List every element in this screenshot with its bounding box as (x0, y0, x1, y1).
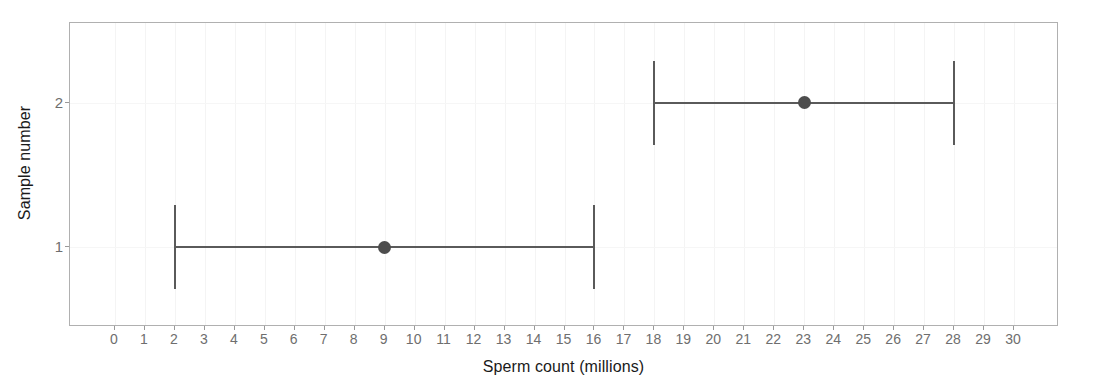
x-tick-mark (1013, 326, 1014, 330)
x-tick-label: 0 (110, 331, 118, 347)
y-tick-label: 1 (55, 238, 63, 255)
x-tick-mark (534, 326, 535, 330)
gridline-vertical (145, 23, 146, 325)
x-tick-mark (893, 326, 894, 330)
x-tick-label: 30 (1005, 331, 1021, 347)
x-tick-mark (983, 326, 984, 330)
x-tick-mark (414, 326, 415, 330)
gridline-vertical (624, 23, 625, 325)
gridline-vertical (894, 23, 895, 325)
x-tick-label: 4 (230, 331, 238, 347)
y-tick-label: 2 (55, 93, 63, 110)
x-tick-label: 21 (736, 331, 752, 347)
x-tick-mark (653, 326, 654, 330)
x-tick-mark (174, 326, 175, 330)
gridline-vertical (475, 23, 476, 325)
x-tick-label: 20 (706, 331, 722, 347)
gridline-vertical (984, 23, 985, 325)
x-tick-label: 8 (350, 331, 358, 347)
gridline-vertical (565, 23, 566, 325)
x-tick-label: 10 (406, 331, 422, 347)
x-tick-label: 3 (200, 331, 208, 347)
x-tick-label: 11 (436, 331, 451, 347)
gridline-vertical (415, 23, 416, 325)
x-tick-mark (384, 326, 385, 330)
y-axis-title: Sample number (8, 0, 42, 326)
gridline-vertical (774, 23, 775, 325)
x-tick-label: 15 (556, 331, 572, 347)
gridline-vertical (684, 23, 685, 325)
x-tick-mark (593, 326, 594, 330)
gridline-vertical (864, 23, 865, 325)
x-tick-mark (144, 326, 145, 330)
errorbar-cap-upper (953, 61, 955, 145)
x-tick-label: 19 (676, 331, 692, 347)
x-tick-mark (773, 326, 774, 330)
gridline-vertical (235, 23, 236, 325)
y-tick-mark (65, 246, 69, 247)
x-tick-mark (234, 326, 235, 330)
x-tick-mark (114, 326, 115, 330)
x-tick-label: 12 (466, 331, 482, 347)
x-tick-label: 23 (795, 331, 811, 347)
gridline-vertical (924, 23, 925, 325)
x-tick-label: 9 (380, 331, 388, 347)
x-tick-mark (204, 326, 205, 330)
gridline-vertical (535, 23, 536, 325)
x-axis-title: Sperm count (millions) (69, 358, 1058, 376)
gridline-vertical (445, 23, 446, 325)
gridline-vertical (505, 23, 506, 325)
x-tick-mark (444, 326, 445, 330)
x-tick-mark (564, 326, 565, 330)
x-tick-label: 18 (646, 331, 662, 347)
x-tick-mark (923, 326, 924, 330)
x-tick-mark (743, 326, 744, 330)
x-tick-mark (294, 326, 295, 330)
x-tick-mark (683, 326, 684, 330)
gridline-vertical (744, 23, 745, 325)
x-tick-label: 28 (945, 331, 961, 347)
x-tick-label: 7 (320, 331, 328, 347)
x-tick-mark (504, 326, 505, 330)
x-tick-mark (833, 326, 834, 330)
x-tick-label: 26 (885, 331, 901, 347)
data-point (798, 96, 811, 109)
x-tick-label: 17 (616, 331, 632, 347)
x-tick-mark (264, 326, 265, 330)
x-tick-label: 27 (915, 331, 931, 347)
gridline-vertical (1014, 23, 1015, 325)
x-tick-label: 1 (140, 331, 148, 347)
x-tick-label: 13 (496, 331, 512, 347)
x-tick-mark (474, 326, 475, 330)
gridline-vertical (115, 23, 116, 325)
gridline-vertical (295, 23, 296, 325)
x-tick-label: 25 (855, 331, 871, 347)
gridline-vertical (804, 23, 805, 325)
gridline-vertical (205, 23, 206, 325)
errorbar-cap-upper (593, 205, 595, 289)
errorbar-cap-lower (174, 205, 176, 289)
x-tick-mark (803, 326, 804, 330)
y-tick-mark (65, 102, 69, 103)
x-tick-label: 22 (765, 331, 781, 347)
data-point (378, 241, 391, 254)
x-tick-label: 16 (586, 331, 602, 347)
sperm-count-errorbar-chart: Sample number 01234567891011121314151617… (0, 0, 1096, 391)
x-tick-label: 5 (260, 331, 268, 347)
x-tick-label: 29 (975, 331, 991, 347)
x-tick-mark (623, 326, 624, 330)
plot-panel (69, 22, 1058, 326)
gridline-vertical (355, 23, 356, 325)
x-tick-label: 14 (526, 331, 542, 347)
gridline-vertical (714, 23, 715, 325)
errorbar-cap-lower (653, 61, 655, 145)
gridline-vertical (265, 23, 266, 325)
x-tick-mark (863, 326, 864, 330)
x-tick-label: 6 (290, 331, 298, 347)
gridline-vertical (834, 23, 835, 325)
x-tick-label: 2 (170, 331, 178, 347)
y-axis-title-text: Sample number (16, 106, 34, 220)
x-tick-mark (713, 326, 714, 330)
x-tick-mark (324, 326, 325, 330)
x-tick-mark (953, 326, 954, 330)
